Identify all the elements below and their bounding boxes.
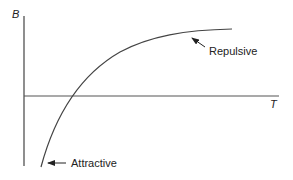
repulsive-arrow-icon	[192, 38, 205, 47]
y-axis-label: B	[12, 8, 19, 20]
b-curve	[41, 29, 232, 167]
x-axis-label: T	[270, 98, 278, 110]
repulsive-label: Repulsive	[209, 45, 257, 57]
b-vs-t-diagram: B T Repulsive Attractive	[0, 0, 293, 180]
attractive-label: Attractive	[71, 157, 117, 169]
